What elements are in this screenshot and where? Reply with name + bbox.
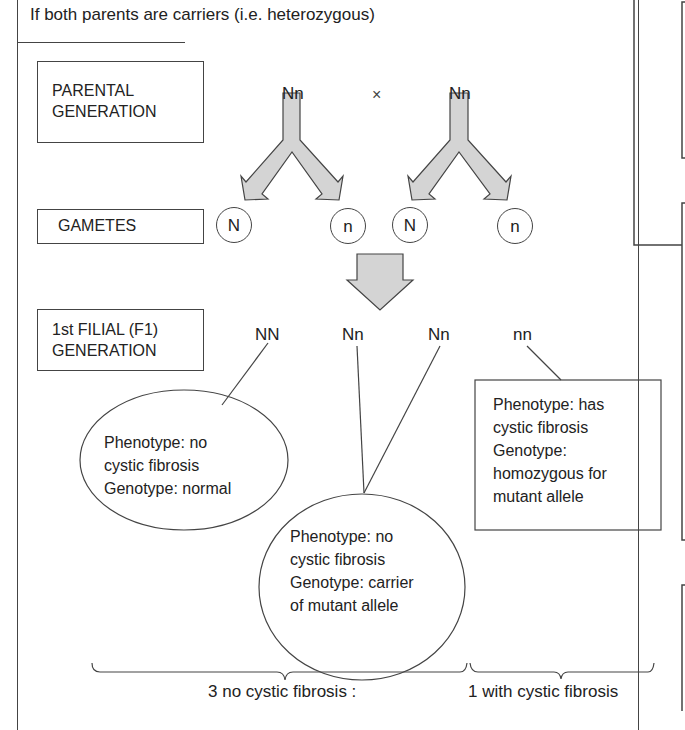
text-line: homozygous for xyxy=(493,462,607,485)
parent2-genotype: Nn xyxy=(449,84,471,104)
gametes-label: GAMETES xyxy=(37,209,204,244)
text-line: Phenotype: no xyxy=(290,525,414,548)
f1-genotype: nn xyxy=(513,325,532,345)
text-line: Genotype: normal xyxy=(104,477,231,500)
affected-ratio: 1 with cystic fibrosis xyxy=(468,682,618,702)
affected-brace xyxy=(470,663,654,679)
unaffected-brace xyxy=(92,663,467,680)
text-line: Phenotype: has xyxy=(493,393,607,416)
parent1-split-arrow xyxy=(241,93,343,200)
gamete-allele: N xyxy=(216,207,252,243)
label-line: GENERATION xyxy=(52,340,203,361)
gamete-allele: n xyxy=(330,208,366,244)
text-line: of mutant allele xyxy=(290,594,414,617)
text-line: Genotype: carrier xyxy=(290,571,414,594)
label-line: 1st FILIAL (F1) xyxy=(52,319,203,340)
text-line: Genotype: xyxy=(493,439,607,462)
parent1-genotype: Nn xyxy=(282,84,304,104)
gamete-allele: N xyxy=(392,207,428,243)
gamete-allele: n xyxy=(497,208,533,244)
text-line: Phenotype: no xyxy=(104,431,231,454)
label-line: PARENTAL xyxy=(52,80,203,101)
cross-symbol: × xyxy=(372,86,381,104)
f1-genotype: Nn xyxy=(342,325,364,345)
parent2-split-arrow xyxy=(408,93,511,200)
text-line: mutant allele xyxy=(493,485,607,508)
fertilization-arrow xyxy=(347,254,413,310)
unaffected-ratio: 3 no cystic fibrosis : xyxy=(208,682,356,702)
f1-generation-label: 1st FILIAL (F1) GENERATION xyxy=(37,309,204,371)
label-text: GAMETES xyxy=(58,217,136,234)
f1-genotype: Nn xyxy=(428,325,450,345)
label-line: GENERATION xyxy=(52,101,203,122)
normal-outcome-text: Phenotype: no cystic fibrosis Genotype: … xyxy=(104,431,231,500)
affected-outcome-text: Phenotype: has cystic fibrosis Genotype:… xyxy=(493,393,607,508)
carrier-outcome-text: Phenotype: no cystic fibrosis Genotype: … xyxy=(290,525,414,617)
f1-genotype: NN xyxy=(255,325,280,345)
text-line: cystic fibrosis xyxy=(104,454,231,477)
text-line: cystic fibrosis xyxy=(290,548,414,571)
parental-generation-label: PARENTAL GENERATION xyxy=(37,61,204,143)
text-line: cystic fibrosis xyxy=(493,416,607,439)
